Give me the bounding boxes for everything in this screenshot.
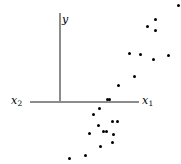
data-point (97, 124, 100, 127)
data-point (139, 53, 142, 56)
data-point (88, 132, 91, 135)
data-point (128, 52, 131, 55)
scatter-plot-figure: y x1 x2 (0, 0, 181, 164)
x2-axis-label: x2 (11, 95, 22, 106)
data-point (98, 107, 101, 110)
data-point (117, 84, 120, 87)
x1-axis-label: x1 (142, 95, 153, 106)
data-point (177, 4, 180, 7)
data-point (105, 130, 108, 133)
data-point (133, 75, 136, 78)
data-point (154, 29, 157, 32)
data-point (84, 154, 87, 157)
y-axis-line (59, 13, 61, 102)
data-point (154, 18, 157, 21)
data-point (167, 54, 170, 57)
data-point (68, 157, 71, 160)
data-point (111, 120, 114, 123)
data-point (99, 145, 102, 148)
data-point (146, 25, 149, 28)
data-point (92, 113, 95, 116)
x-axis-line (30, 101, 139, 103)
data-point (111, 141, 114, 144)
data-point (112, 133, 115, 136)
data-point (152, 58, 155, 61)
y-axis-label: y (62, 14, 68, 25)
data-point (116, 120, 119, 123)
data-point (108, 98, 111, 101)
